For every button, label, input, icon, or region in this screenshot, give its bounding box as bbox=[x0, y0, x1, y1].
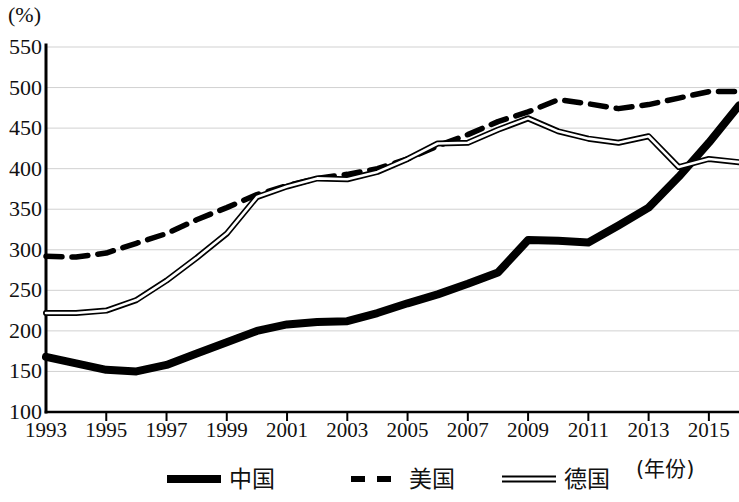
y-axis-tick-label: 200 bbox=[9, 318, 42, 344]
x-axis-tick-label: 2007 bbox=[447, 418, 489, 443]
x-axis-tick-label: 1997 bbox=[146, 418, 188, 443]
x-axis-tick-label: 1995 bbox=[85, 418, 127, 443]
y-axis-tick-label: 350 bbox=[9, 196, 42, 222]
y-axis-tick-label: 450 bbox=[9, 115, 42, 141]
y-axis-tick-label: 500 bbox=[9, 75, 42, 101]
y-axis-tick-label: 150 bbox=[9, 358, 42, 384]
x-axis-tick-label: 2005 bbox=[387, 418, 429, 443]
legend-item-3[interactable]: 德国 bbox=[500, 462, 610, 496]
legend-label: 中国 bbox=[229, 468, 275, 491]
legend-item-2[interactable]: 美国 bbox=[345, 462, 455, 496]
x-axis-tick-label: 1993 bbox=[25, 418, 67, 443]
legend-swatch-icon bbox=[345, 470, 403, 488]
x-axis-tick-label: 2003 bbox=[326, 418, 368, 443]
x-axis-tick-label: 2013 bbox=[628, 418, 670, 443]
x-axis-tick-label: 1999 bbox=[206, 418, 248, 443]
legend-label: 美国 bbox=[409, 468, 455, 491]
chart-legend: 中国美国德国 bbox=[0, 462, 739, 502]
x-axis-tick-label: 2001 bbox=[266, 418, 308, 443]
legend-item-1[interactable]: 中国 bbox=[165, 462, 275, 496]
series-2 bbox=[46, 92, 739, 257]
chart-container: (%) 100150200250300350400450500550 19931… bbox=[0, 0, 739, 502]
legend-label: 德国 bbox=[564, 468, 610, 491]
y-axis-tick-label: 250 bbox=[9, 277, 42, 303]
x-axis-tick-label: 2009 bbox=[507, 418, 549, 443]
y-axis-tick-label: 400 bbox=[9, 156, 42, 182]
y-axis-tick-label: 300 bbox=[9, 237, 42, 263]
x-axis-tick-label: 2015 bbox=[688, 418, 730, 443]
legend-swatch-icon bbox=[165, 470, 223, 488]
y-axis-tick-label: 550 bbox=[9, 34, 42, 60]
legend-swatch-icon bbox=[500, 470, 558, 488]
series-line-usa bbox=[46, 92, 739, 257]
x-axis-tick-label: 2011 bbox=[568, 418, 609, 443]
